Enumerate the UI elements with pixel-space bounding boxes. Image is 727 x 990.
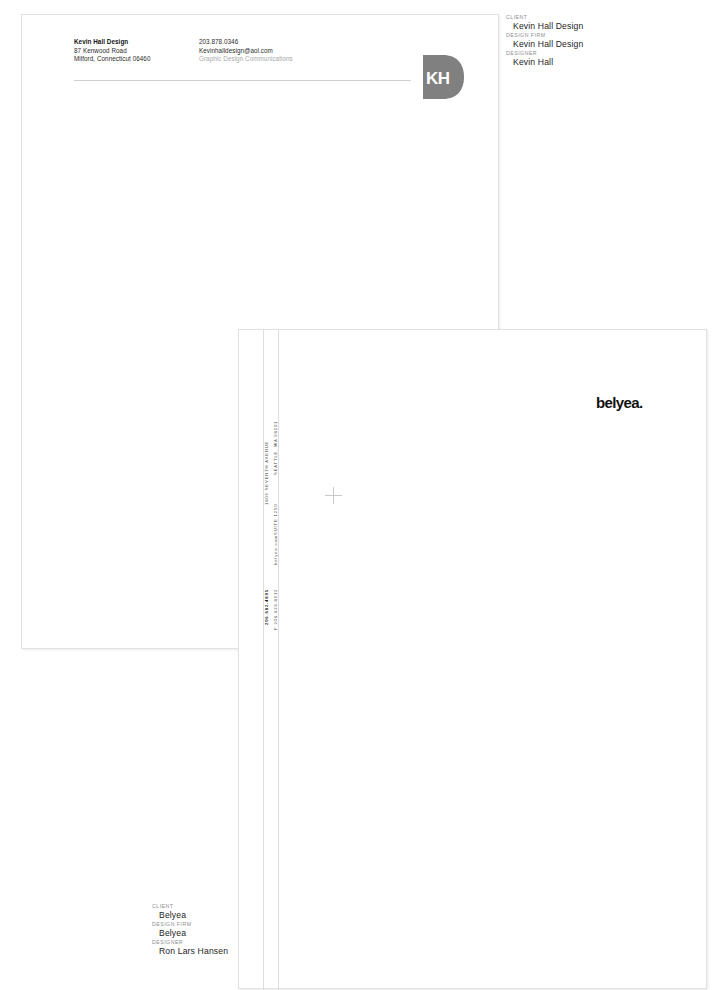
credit-label-designer: DESIGNER xyxy=(152,939,228,946)
belyea-page: SEATTLE, WA 98101 SUITE 1250 1809 SEVENT… xyxy=(238,329,707,989)
credits-block-top: CLIENT Kevin Hall Design DESIGN FIRM Kev… xyxy=(506,14,583,68)
belyea-city-state-zip: SEATTLE, WA 98101 xyxy=(274,421,278,475)
credit-label-design-firm: DESIGN FIRM xyxy=(506,32,583,39)
letterhead-city-state-zip: Milford, Connecticut 06460 xyxy=(74,55,199,64)
kh-logo-icon: KH xyxy=(417,52,467,102)
letterhead-company-name: Kevin Hall Design xyxy=(74,38,199,47)
credit-value-client: Belyea xyxy=(152,910,228,921)
belyea-fax: F 206.623.8912 xyxy=(274,589,278,630)
letterhead-tagline: Graphic Design Communications xyxy=(199,55,444,64)
credit-value-designer: Kevin Hall xyxy=(506,57,583,68)
belyea-vertical-rule-left xyxy=(263,330,264,990)
credit-label-design-firm: DESIGN FIRM xyxy=(152,921,228,928)
letterhead-street: 87 Kenwood Road xyxy=(74,47,199,56)
credit-label-designer: DESIGNER xyxy=(506,50,583,57)
credit-label-client: CLIENT xyxy=(152,903,228,910)
letterhead-horizontal-rule xyxy=(74,80,411,81)
belyea-street: 1809 SEVENTH AVENUE xyxy=(265,441,269,505)
credit-label-client: CLIENT xyxy=(506,14,583,21)
credit-value-design-firm: Belyea xyxy=(152,928,228,939)
belyea-website: belyea.com xyxy=(274,535,278,565)
kh-logo-letters: KH xyxy=(426,69,450,88)
letterhead-text-block: Kevin Hall Design 87 Kenwood Road Milfor… xyxy=(74,38,444,64)
credit-value-design-firm: Kevin Hall Design xyxy=(506,39,583,50)
belyea-wordmark: belyea. xyxy=(596,394,643,411)
credit-value-client: Kevin Hall Design xyxy=(506,21,583,32)
letterhead-phone: 203.878.0346 xyxy=(199,38,444,47)
credits-block-bottom: CLIENT Belyea DESIGN FIRM Belyea DESIGNE… xyxy=(152,903,228,957)
credit-value-designer: Ron Lars Hansen xyxy=(152,946,228,957)
letterhead-address-column: Kevin Hall Design 87 Kenwood Road Milfor… xyxy=(74,38,199,64)
belyea-suite: SUITE 1250 xyxy=(274,504,278,535)
letterhead-email: Kevinhalldesign@aol.com xyxy=(199,47,444,56)
registration-crosshair-icon xyxy=(325,487,342,504)
belyea-phone: 206.682.4895 xyxy=(265,589,269,625)
letterhead-contact-column: 203.878.0346 Kevinhalldesign@aol.com Gra… xyxy=(199,38,444,64)
